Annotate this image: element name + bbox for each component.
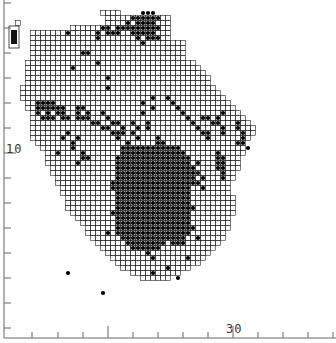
occurrence-dots	[36, 11, 250, 295]
distribution-map	[0, 0, 336, 343]
axis-label-left: 10	[6, 142, 22, 156]
grid-cells	[16, 11, 256, 281]
legend-symbol	[11, 30, 17, 44]
axis-label-bottom: 30	[226, 322, 242, 336]
